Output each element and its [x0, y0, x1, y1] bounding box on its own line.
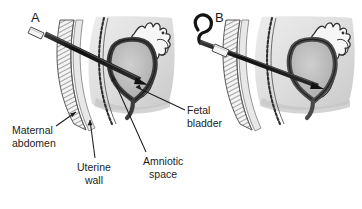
label-maternal-abdomen: Maternal abdomen [12, 124, 56, 150]
label-uterine-wall-line2: wall [77, 174, 111, 187]
label-amniotic-space-line1: Amniotic [143, 155, 183, 167]
label-fetal-bladder-line1: Fetal [187, 104, 210, 116]
label-fetal-bladder-line2: bladder [187, 117, 222, 130]
panel-letter-b: B [215, 10, 224, 25]
medical-illustration-figure: A B Maternal abdomen Uterine wall Amniot… [0, 0, 362, 209]
label-uterine-wall-line1: Uterine [77, 161, 111, 173]
label-maternal-abdomen-line2: abdomen [12, 137, 56, 150]
label-amniotic-space-line2: space [143, 168, 183, 181]
label-maternal-abdomen-line1: Maternal [12, 124, 53, 136]
trocar-hub [28, 27, 44, 39]
label-fetal-bladder: Fetal bladder [187, 104, 222, 130]
label-amniotic-space: Amniotic space [143, 155, 183, 181]
panel-letter-a: A [31, 10, 40, 25]
catheter-pigtail-curl [195, 15, 211, 43]
label-uterine-wall: Uterine wall [77, 161, 111, 187]
